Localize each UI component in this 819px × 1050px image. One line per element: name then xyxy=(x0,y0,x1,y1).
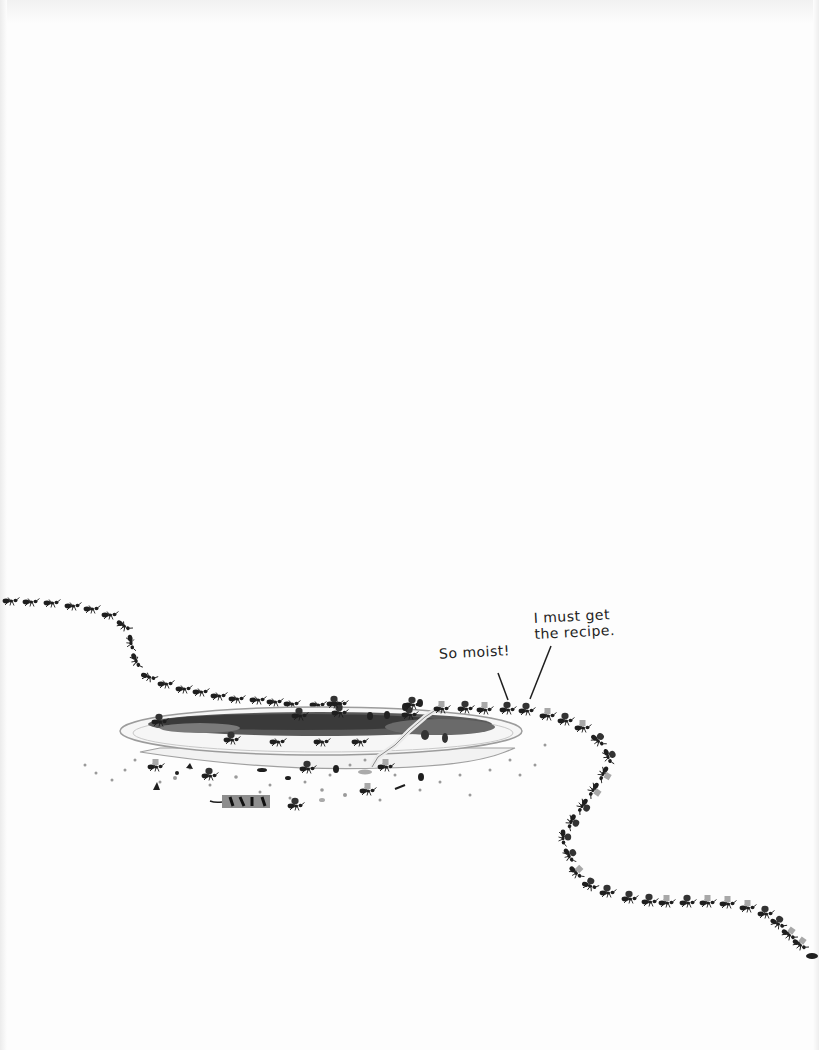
speech-text-recipe: I must get the recipe. xyxy=(533,606,615,642)
speech-pointer-2 xyxy=(530,646,551,699)
illustration xyxy=(0,0,819,1050)
cake-slice-carried xyxy=(210,795,270,808)
speech-pointer-1 xyxy=(498,673,508,700)
ant-trail-left xyxy=(3,598,349,710)
